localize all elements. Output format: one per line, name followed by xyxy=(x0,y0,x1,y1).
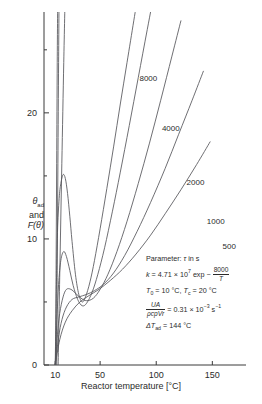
inlet-temp-value: = 10 °C, xyxy=(155,286,181,295)
adiabatic-value: = 144 °C xyxy=(163,321,191,330)
rate-constant-prefactor: 4.71 × 10 xyxy=(158,270,188,279)
y-axis-and-word: and xyxy=(14,210,44,220)
curve-label-500: 500 xyxy=(222,242,236,251)
rate-constant-equals: = xyxy=(152,270,156,279)
x-axis-title: Reactor temperature [°C] xyxy=(0,381,262,391)
heat-transfer-numerator: UA xyxy=(146,302,165,310)
adiabatic-sub: ad xyxy=(155,326,161,332)
curve-label-8000: 8000 xyxy=(139,74,157,83)
curve-label-4000: 4000 xyxy=(162,124,180,133)
y-tick-label: 10 xyxy=(27,234,37,244)
annotation-heat-transfer: UA ρcpVr = 0.31 × 10−3 s−1 xyxy=(146,302,250,318)
annotation-tau-units: in s xyxy=(188,254,199,263)
x-tick-label: 150 xyxy=(205,370,220,380)
y-axis-title: θad and F(θ) xyxy=(14,196,44,230)
rate-constant-frac-denominator: T xyxy=(213,275,230,282)
x-tick-label: 100 xyxy=(149,370,164,380)
rate-constant-symbol: k xyxy=(146,270,150,279)
annotation-adiabatic-rise: ΔTad = 144 °C xyxy=(146,322,250,332)
annotation-parameter-line: Parameter: τ in s xyxy=(146,255,250,263)
coolant-temp-sub: c xyxy=(188,291,191,297)
inlet-temp-sub: 0 xyxy=(150,291,153,297)
parameter-annotation-box: Parameter: τ in s k = 4.71 × 107 exp − 8… xyxy=(146,255,250,337)
y-tick-label: 20 xyxy=(27,108,37,118)
coolant-temp-value: = 20 °C xyxy=(193,286,217,295)
curve-8000 xyxy=(55,0,138,365)
chart-figure: 105010015001020 8000400020001000500 θad … xyxy=(0,0,262,404)
rate-constant-exponent: 7 xyxy=(188,269,191,275)
curve-4000 xyxy=(55,0,155,365)
annotation-tau-symbol: τ xyxy=(184,254,187,263)
annotation-rate-constant: k = 4.71 × 107 exp − 8000 T xyxy=(146,267,250,283)
curve-label-1000: 1000 xyxy=(207,217,225,226)
heat-transfer-denominator: ρcpVr xyxy=(146,310,165,317)
annotation-temperatures: T0 = 10 °C, Tc = 20 °C xyxy=(146,287,250,297)
x-tick-label: 50 xyxy=(95,370,105,380)
heat-transfer-fraction: UA ρcpVr xyxy=(146,302,165,318)
heat-transfer-unit-exponent: −1 xyxy=(215,303,221,309)
y-tick-label: 0 xyxy=(32,360,37,370)
annotation-parameter-title: Parameter: xyxy=(146,254,182,263)
curve-label-2000: 2000 xyxy=(187,178,205,187)
heat-transfer-equals: = xyxy=(167,305,171,314)
heat-transfer-value: 0.31 × 10 xyxy=(173,305,203,314)
y-axis-f-theta: F(θ) xyxy=(14,220,44,230)
rate-constant-fraction: 8000 T xyxy=(213,267,230,283)
rate-constant-exp-text: exp − xyxy=(193,270,211,279)
curve-F-line-c xyxy=(58,0,65,365)
heat-transfer-value-exponent: −3 xyxy=(204,303,210,309)
adiabatic-symbol: ΔT xyxy=(146,321,155,330)
curve-labels: 8000400020001000500 xyxy=(139,74,236,251)
y-axis-theta-sub: ad xyxy=(37,202,44,208)
x-tick-label: 10 xyxy=(50,370,60,380)
